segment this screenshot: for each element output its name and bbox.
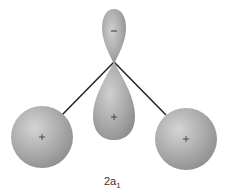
- orbital-diagram: [0, 0, 228, 196]
- orbital-label: 2a1: [104, 175, 121, 190]
- top-lobe: [102, 9, 126, 64]
- bottom-lobe: [93, 62, 135, 140]
